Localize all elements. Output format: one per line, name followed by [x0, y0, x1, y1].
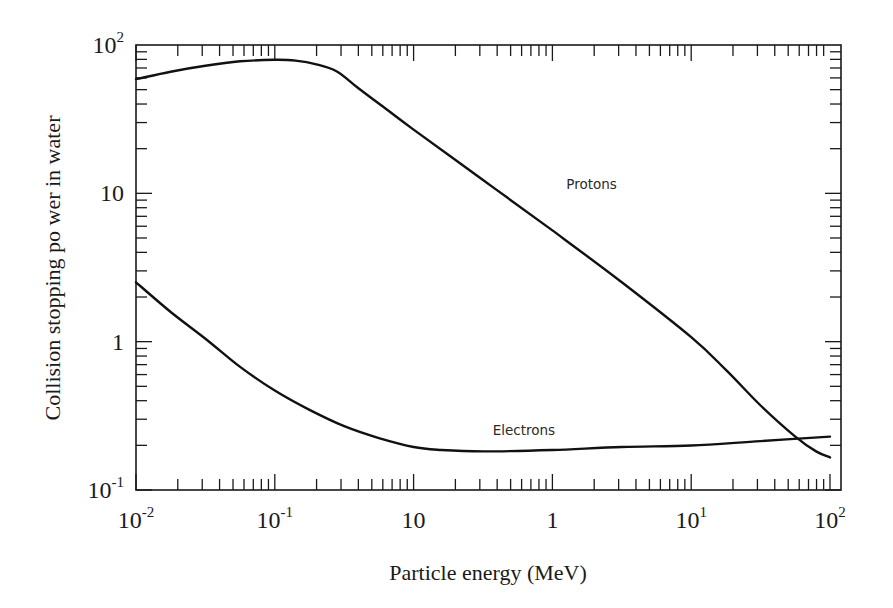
y-axis-title: Collision stopping po wer in water — [40, 115, 65, 421]
y-tick-label: 102 — [93, 29, 125, 58]
x-tick-labels: 10-210-1101101102 — [118, 504, 846, 533]
protons-label: Protons — [566, 176, 617, 192]
axis-ticks — [136, 45, 841, 490]
plot-frame — [136, 45, 841, 490]
x-tick-label: 10-1 — [257, 504, 294, 533]
x-tick-label: 101 — [675, 504, 707, 533]
protons-curve — [136, 60, 830, 458]
x-tick-label: 10 — [402, 507, 426, 533]
y-tick-labels: 10210110-1 — [88, 29, 125, 503]
y-tick-label: 1 — [112, 329, 124, 355]
x-axis-title: Particle energy (MeV) — [389, 560, 587, 585]
electrons-curve — [136, 282, 830, 451]
x-tick-label: 102 — [814, 504, 846, 533]
data-curves — [136, 60, 830, 458]
y-tick-label: 10 — [100, 180, 124, 206]
x-tick-label: 1 — [546, 507, 558, 533]
stopping-power-chart: 10-210-1101101102 10210110-1 Protons Ele… — [0, 0, 893, 608]
electrons-label: Electrons — [493, 422, 555, 438]
y-tick-label: 10-1 — [88, 474, 125, 503]
x-tick-label: 10-2 — [118, 504, 155, 533]
